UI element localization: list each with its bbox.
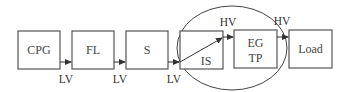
block-load-label: Load bbox=[298, 42, 323, 56]
block-egtp-label-line2: TP bbox=[248, 51, 262, 65]
block-cpg-label: CPG bbox=[27, 43, 51, 57]
voltage-label-egtp-load: HV bbox=[274, 15, 291, 27]
voltage-label-cpg-fl: LV bbox=[59, 73, 74, 85]
voltage-label-is-egtp: HV bbox=[220, 16, 237, 28]
block-is-label: IS bbox=[201, 54, 212, 68]
power-chain-diagram: CPG FL S IS EG TP Load LV LV LV HV HV bbox=[0, 0, 351, 92]
voltage-label-fl-s: LV bbox=[113, 73, 128, 85]
block-load: Load bbox=[289, 30, 332, 68]
block-egtp-label-line1: EG bbox=[248, 36, 264, 50]
block-s-label: S bbox=[144, 43, 151, 57]
block-cpg: CPG bbox=[18, 31, 60, 69]
voltage-label-s-is: LV bbox=[167, 73, 182, 85]
block-s: S bbox=[126, 31, 168, 69]
block-fl: FL bbox=[72, 31, 114, 69]
block-egtp: EG TP bbox=[234, 30, 277, 68]
block-fl-label: FL bbox=[86, 43, 100, 57]
